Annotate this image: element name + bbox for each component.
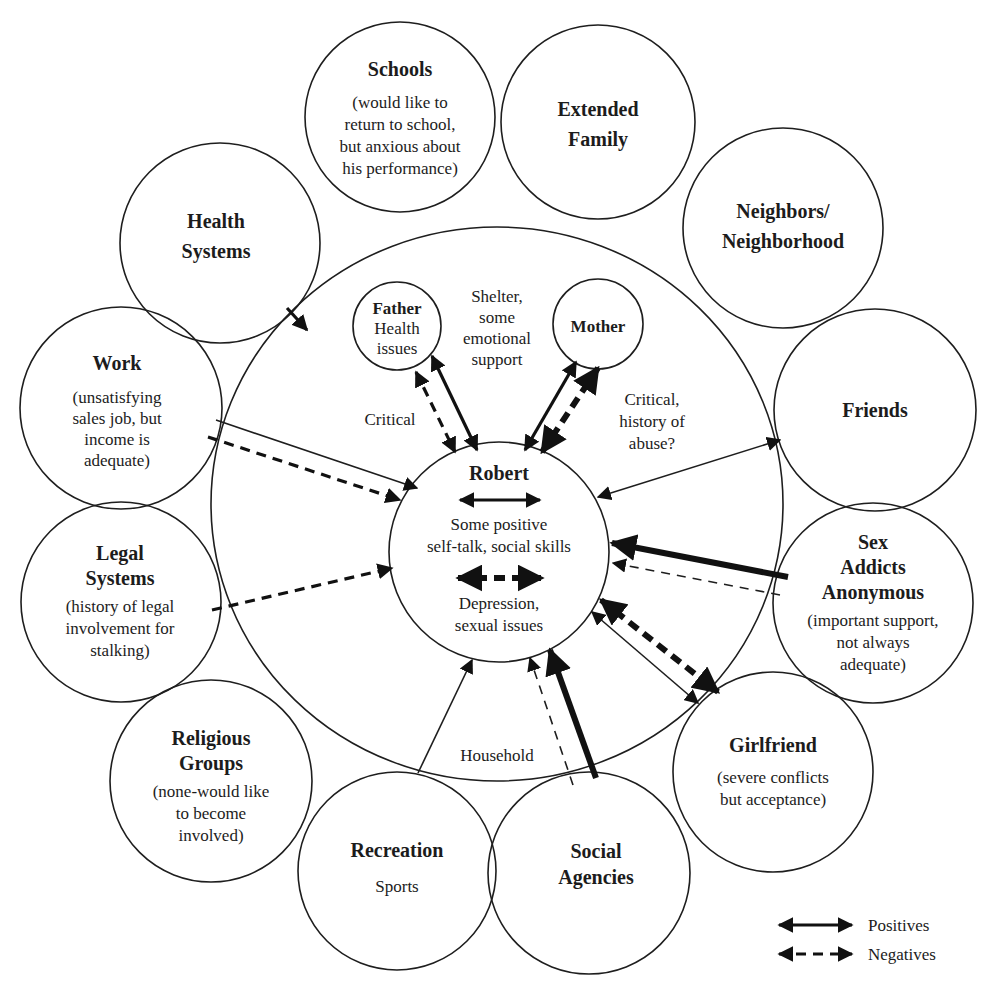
svg-text:(would like to: (would like to bbox=[352, 93, 447, 112]
svg-text:return to school,: return to school, bbox=[345, 115, 456, 134]
girlfriend-robert-positive-arrow bbox=[592, 612, 698, 703]
svg-text:history of: history of bbox=[619, 412, 685, 431]
system-neighbors: Neighbors/ Neighborhood bbox=[683, 128, 883, 328]
svg-text:involved): involved) bbox=[178, 826, 243, 845]
father-negative-label: Critical bbox=[365, 410, 416, 429]
legend-positives-label: Positives bbox=[868, 916, 929, 935]
health-to-household-arrow bbox=[287, 308, 307, 330]
svg-text:Robert: Robert bbox=[469, 462, 529, 484]
svg-text:self-talk, social skills: self-talk, social skills bbox=[427, 537, 571, 556]
svg-text:(none-would like: (none-would like bbox=[153, 782, 270, 801]
svg-text:Sex: Sex bbox=[858, 531, 888, 553]
father-robert-positive-arrow bbox=[432, 356, 477, 450]
svg-text:Mother: Mother bbox=[571, 317, 626, 336]
svg-text:Addicts: Addicts bbox=[840, 556, 906, 578]
svg-text:issues: issues bbox=[377, 339, 418, 358]
legal-robert-negative-arrow bbox=[212, 568, 392, 610]
svg-text:adequate): adequate) bbox=[840, 655, 906, 674]
svg-text:(history of legal: (history of legal bbox=[66, 597, 175, 616]
system-recreation: Recreation Sports bbox=[298, 772, 496, 970]
mother-robert-negative-arrow bbox=[542, 368, 598, 452]
system-girlfriend: Girlfriend (severe conflicts but accepta… bbox=[673, 672, 873, 872]
svg-text:Family: Family bbox=[568, 128, 628, 151]
household-father: Father Health issues bbox=[353, 282, 441, 370]
svg-text:Father: Father bbox=[372, 299, 422, 318]
legend-negatives-label: Negatives bbox=[868, 945, 936, 964]
svg-text:sexual issues: sexual issues bbox=[455, 616, 543, 635]
svg-text:Health: Health bbox=[187, 210, 245, 232]
system-schools: Schools (would like to return to school,… bbox=[305, 22, 495, 212]
household-mother: Mother bbox=[553, 279, 643, 369]
svg-text:Agencies: Agencies bbox=[558, 866, 634, 889]
svg-text:some: some bbox=[479, 308, 515, 327]
svg-text:income is: income is bbox=[84, 430, 150, 449]
system-extended-family: Extended Family bbox=[501, 25, 695, 219]
svg-text:Neighborhood: Neighborhood bbox=[722, 230, 844, 253]
ecomap-diagram: Schools (would like to return to school,… bbox=[0, 0, 994, 992]
svg-text:emotional: emotional bbox=[463, 329, 531, 348]
svg-text:Shelter,: Shelter, bbox=[471, 287, 523, 306]
svg-text:Systems: Systems bbox=[86, 567, 155, 590]
friends-robert-positive-arrow bbox=[598, 440, 780, 497]
svg-text:Some positive: Some positive bbox=[451, 515, 548, 534]
svg-text:(severe conflicts: (severe conflicts bbox=[717, 768, 829, 787]
svg-text:to become: to become bbox=[176, 804, 246, 823]
work-robert-positive-arrow bbox=[216, 420, 417, 488]
svg-text:his performance): his performance) bbox=[342, 159, 458, 178]
svg-text:Systems: Systems bbox=[182, 240, 251, 263]
svg-text:Neighbors/: Neighbors/ bbox=[736, 200, 830, 223]
svg-text:support: support bbox=[472, 350, 523, 369]
system-religious-groups: Religious Groups (none-would like to bec… bbox=[110, 680, 312, 882]
system-sex-addicts-anonymous: Sex Addicts Anonymous (important support… bbox=[773, 503, 973, 703]
svg-text:but acceptance): but acceptance) bbox=[720, 790, 826, 809]
svg-text:Recreation: Recreation bbox=[351, 839, 444, 861]
svg-text:Depression,: Depression, bbox=[459, 594, 540, 613]
system-social-agencies: Social Agencies bbox=[488, 772, 690, 974]
svg-text:Health: Health bbox=[374, 319, 420, 338]
svg-text:but anxious about: but anxious about bbox=[340, 137, 461, 156]
saa-robert-positive-arrow bbox=[612, 543, 788, 577]
social-agencies-robert-negative-arrow bbox=[530, 658, 573, 785]
father-positive-label: Shelter, some emotional support bbox=[463, 287, 531, 369]
svg-text:Work: Work bbox=[93, 352, 143, 374]
svg-text:Sports: Sports bbox=[375, 877, 418, 896]
svg-text:sales job, but: sales job, but bbox=[72, 409, 162, 428]
system-work: Work (unsatisfying sales job, but income… bbox=[20, 307, 222, 509]
work-robert-negative-arrow bbox=[208, 437, 400, 500]
svg-text:(unsatisfying: (unsatisfying bbox=[73, 388, 162, 407]
mother-robert-positive-arrow bbox=[525, 362, 576, 450]
svg-text:Girlfriend: Girlfriend bbox=[729, 734, 817, 756]
svg-text:Social: Social bbox=[570, 840, 622, 862]
svg-text:Legal: Legal bbox=[96, 542, 144, 565]
father-robert-negative-arrow bbox=[416, 372, 455, 452]
svg-text:Religious: Religious bbox=[172, 727, 251, 750]
system-title: Schools bbox=[368, 58, 433, 80]
svg-text:adequate): adequate) bbox=[84, 451, 150, 470]
svg-text:Extended: Extended bbox=[557, 98, 638, 120]
focus-robert: Robert Some positive self-talk, social s… bbox=[389, 442, 609, 662]
svg-text:Friends: Friends bbox=[842, 399, 908, 421]
svg-text:(important support,: (important support, bbox=[807, 611, 938, 630]
household-label: Household bbox=[460, 746, 534, 765]
system-friends: Friends bbox=[774, 309, 976, 511]
svg-text:Critical,: Critical, bbox=[624, 390, 679, 409]
social-agencies-robert-positive-arrow bbox=[550, 650, 596, 778]
svg-text:Groups: Groups bbox=[179, 752, 243, 775]
system-legal-systems: Legal Systems (history of legal involvem… bbox=[21, 502, 221, 702]
svg-text:Anonymous: Anonymous bbox=[822, 581, 924, 604]
svg-text:abuse?: abuse? bbox=[629, 434, 675, 453]
girlfriend-robert-negative-arrow bbox=[601, 600, 718, 692]
svg-text:stalking): stalking) bbox=[90, 641, 150, 660]
legend: Positives Negatives bbox=[779, 916, 936, 964]
mother-negative-label: Critical, history of abuse? bbox=[619, 390, 685, 453]
svg-text:not always: not always bbox=[836, 633, 909, 652]
svg-text:involvement for: involvement for bbox=[65, 619, 174, 638]
